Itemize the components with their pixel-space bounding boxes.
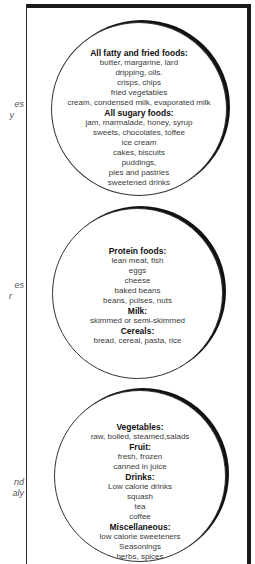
list-item: coffee — [54, 512, 226, 522]
heading-miscellaneous: Miscellaneous: — [54, 522, 226, 532]
fragment-line: r — [0, 291, 24, 302]
list-item: crisps, chips — [51, 78, 227, 88]
list-item: dripping, oils. — [51, 68, 227, 78]
fragment-line: aly — [0, 488, 24, 499]
list-item: pies and pastries — [51, 168, 227, 178]
side-text-fragment-2: es r — [0, 280, 24, 302]
list-item: lean meat, fish — [52, 256, 223, 266]
list-item: butter, margarine, lard — [51, 58, 227, 68]
list-item: cream, condensed milk, evaporated milk — [51, 98, 227, 108]
heading-vegetables: Vegetables: — [54, 422, 226, 432]
list-item: skimmed or semi-skimmed — [52, 316, 223, 326]
fragment-line: es — [0, 280, 24, 291]
list-item: herbs, spices — [54, 552, 226, 562]
list-item: ice cream — [51, 138, 227, 148]
list-item: cakes, biscuits — [51, 148, 227, 158]
list-item: sweetened drinks — [51, 178, 227, 188]
list-item: sweets, chocolates, toffee — [51, 128, 227, 138]
side-text-fragment-1: es y — [0, 99, 24, 121]
heading-fruit: Fruit: — [54, 442, 226, 452]
list-item: raw, boiled, steamed,salads — [54, 432, 226, 442]
list-item: fresh, frozen — [54, 452, 226, 462]
list-item: beans, pulses, nuts — [52, 296, 223, 306]
list-item: low calorie sweeteners — [54, 532, 226, 542]
list-item: Low calorie drinks — [54, 482, 226, 492]
fragment-line: y — [0, 110, 24, 121]
list-item: tea — [54, 502, 226, 512]
list-item: eggs — [52, 266, 223, 276]
list-item: bread, cereal, pasta, rice — [52, 336, 223, 346]
heading-sugary-foods: All sugary foods: — [51, 108, 227, 118]
heading-fatty-foods: All fatty and fried foods: — [51, 48, 227, 58]
heading-milk: Milk: — [52, 306, 223, 316]
heading-cereals: Cereals: — [52, 326, 223, 336]
list-item: fried vegetables — [51, 88, 227, 98]
heading-drinks: Drinks: — [54, 472, 226, 482]
list-item: jam, marmalade, honey, syrup — [51, 118, 227, 128]
side-text-fragment-3: nd aly — [0, 477, 24, 499]
list-item: canned in juice — [54, 462, 226, 472]
fragment-line: es — [0, 99, 24, 110]
list-item: squash — [54, 492, 226, 502]
heading-protein-foods: Protein foods: — [52, 246, 223, 256]
list-item: puddings, — [51, 158, 227, 168]
list-item: cheese — [52, 276, 223, 286]
fragment-line: nd — [0, 477, 24, 488]
list-item: Seasonings — [54, 542, 226, 552]
circle-1-text: All fatty and fried foods: butter, marga… — [51, 48, 227, 188]
circle-3-text: Vegetables: raw, boiled, steamed,salads … — [54, 422, 226, 562]
list-item: baked beans — [52, 286, 223, 296]
circle-2-text: Protein foods: lean meat, fish eggs chee… — [52, 246, 223, 346]
